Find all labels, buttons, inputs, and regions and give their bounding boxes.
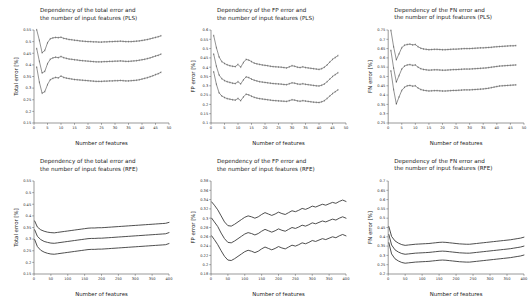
y-tick-label: 0.3	[202, 217, 208, 221]
y-tick-label: 0.65	[377, 47, 385, 51]
chart-panel-pls-fp: Dependency of the FP error andthe number…	[177, 0, 354, 151]
x-tick-label: 30	[113, 126, 118, 130]
series-line-0	[214, 36, 338, 70]
x-tick-label: 0	[387, 126, 390, 130]
y-tick-label: 0.4	[25, 214, 31, 218]
y-tick-label: 0.25	[377, 263, 385, 267]
axis-spines	[388, 30, 524, 123]
y-axis-label: FP error [%]	[190, 60, 196, 92]
y-tick-label: 0.3	[202, 84, 208, 88]
x-tick-label: 40	[494, 126, 499, 130]
series-line-2	[37, 67, 161, 93]
y-tick-label: 0.5	[25, 191, 31, 195]
y-tick-label: 0.75	[377, 28, 385, 32]
y-tick-label: 0.2	[25, 261, 31, 265]
x-axis-label: Number of features	[430, 140, 483, 146]
y-tick-label: 0.25	[200, 93, 208, 97]
x-tick-label: 25	[99, 126, 104, 130]
x-tick-label: 0	[387, 277, 390, 281]
y-tick-label: 0.7	[380, 38, 386, 42]
x-tick-label: 400	[343, 277, 351, 281]
y-tick-label: 0.4	[380, 93, 386, 97]
series-line-2	[391, 71, 516, 104]
y-tick-label: 0.6	[380, 56, 386, 60]
y-tick-label: 0.55	[200, 38, 208, 42]
y-tick-label: 0.35	[377, 103, 385, 107]
x-tick-label: 45	[508, 126, 513, 130]
x-tick-label: 100	[419, 277, 427, 281]
chart-title-line1: Dependency of the FN error and	[394, 158, 485, 165]
series-line-0	[35, 221, 169, 233]
x-tick-label: 5	[401, 126, 403, 130]
figure-grid: Dependency of the total error andthe num…	[0, 0, 532, 302]
x-tick-label: 10	[413, 126, 418, 130]
y-tick-label: 0.2	[380, 272, 386, 276]
chart-panel-rfe-fn: Dependency of the FN error andthe number…	[354, 151, 532, 302]
x-tick-label: 300	[132, 277, 140, 281]
y-tick-label: 0.5	[380, 75, 386, 79]
y-tick-label: 0.5	[202, 47, 208, 51]
y-tick-label: 0.55	[377, 207, 385, 211]
y-axis-label: FP error [%]	[190, 211, 196, 243]
chart-title-line2: the number of input features (PLS)	[217, 15, 314, 22]
axis-spines	[211, 30, 346, 123]
x-tick-label: 15	[72, 126, 77, 130]
y-tick-label: 0.3	[25, 237, 31, 241]
y-tick-label: 0.34	[200, 198, 209, 202]
y-tick-label: 0.38	[200, 179, 209, 183]
y-tick-label: 0.18	[200, 272, 209, 276]
chart-title-line1: Dependency of the FP error and	[217, 158, 307, 165]
y-tick-label: 0.2	[25, 110, 31, 114]
chart-panel-rfe-fp: Dependency of the FP error andthe number…	[177, 151, 354, 302]
y-tick-label: 0.25	[377, 121, 385, 125]
y-tick-label: 0.32	[200, 207, 208, 211]
chart-title-line1: Dependency of the FP error and	[217, 7, 307, 14]
y-tick-label: 0.2	[202, 103, 208, 107]
y-tick-label: 0.4	[25, 63, 31, 67]
series-line-1	[389, 235, 524, 255]
series-line-2	[212, 234, 346, 260]
x-tick-label: 100	[64, 277, 72, 281]
y-tick-label: 0.45	[377, 84, 385, 88]
y-tick-label: 0.6	[202, 28, 208, 32]
series-line-2	[389, 243, 524, 263]
y-tick-label: 0.24	[200, 244, 209, 248]
x-tick-label: 400	[166, 277, 174, 281]
y-tick-label: 0.55	[23, 179, 31, 183]
y-tick-label: 0.5	[25, 40, 31, 44]
series-line-1	[35, 230, 169, 243]
x-axis-label: Number of features	[75, 140, 128, 146]
y-tick-label: 0.45	[23, 52, 31, 56]
axis-spines	[388, 181, 524, 274]
chart-title-line1: Dependency of the total error and	[40, 7, 136, 14]
x-tick-label: 50	[522, 126, 527, 130]
x-tick-label: 0	[210, 126, 213, 130]
y-axis-label: FN error [%]	[367, 60, 373, 93]
x-tick-label: 150	[81, 277, 89, 281]
y-tick-label: 0.3	[25, 86, 31, 90]
x-tick-label: 45	[330, 126, 335, 130]
chart-title-line2: the number of input features (PLS)	[40, 15, 137, 22]
series-line-0	[391, 30, 516, 59]
y-tick-label: 0.3	[380, 112, 386, 116]
y-tick-label: 0.15	[200, 112, 208, 116]
y-tick-label: 0.25	[23, 249, 31, 253]
y-axis-label: Total error [%]	[13, 208, 19, 247]
chart-title-line2: the number of input features (RFE)	[217, 166, 315, 173]
x-tick-label: 250	[292, 277, 300, 281]
x-tick-label: 0	[33, 277, 36, 281]
x-tick-label: 50	[226, 277, 231, 281]
y-tick-label: 0.35	[377, 244, 385, 248]
y-tick-label: 0.4	[202, 66, 208, 70]
chart-title-line2: the number of input features (PLS)	[394, 15, 492, 22]
x-tick-label: 20	[440, 126, 445, 130]
y-tick-label: 0.45	[200, 56, 208, 60]
x-tick-label: 0	[33, 126, 36, 130]
y-tick-label: 0.28	[200, 226, 209, 230]
x-tick-label: 50	[344, 126, 349, 130]
x-axis-label: Number of features	[252, 291, 305, 297]
x-tick-label: 40	[317, 126, 322, 130]
x-tick-label: 350	[504, 277, 512, 281]
x-tick-label: 15	[427, 126, 432, 130]
chart-panel-pls-fn: Dependency of the FN error andthe number…	[354, 0, 532, 151]
